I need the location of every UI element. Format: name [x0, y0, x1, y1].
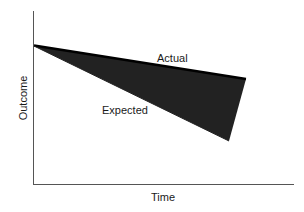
- chart-canvas: [0, 0, 304, 212]
- gap-shaded-region: [34, 46, 246, 141]
- x-axis-label: Time: [151, 192, 175, 203]
- actual-label: Actual: [157, 53, 188, 64]
- expected-label: Expected: [102, 105, 148, 116]
- y-axis-label: Outcome: [18, 76, 29, 121]
